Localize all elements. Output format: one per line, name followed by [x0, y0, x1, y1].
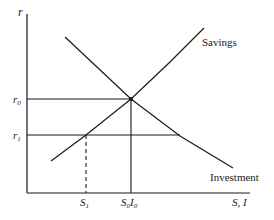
savings-curve — [51, 28, 204, 161]
labels: r S, I r0 r1 S1 S0I0 Savings Investment — [13, 5, 259, 210]
r1-label: r1 — [13, 129, 21, 143]
equilibrium-point — [129, 97, 133, 101]
investment-label: Investment — [210, 171, 259, 183]
investment-curve — [65, 37, 233, 168]
savings-label: Savings — [202, 36, 237, 48]
s0-i0-label: S0I0 — [121, 196, 138, 210]
r0-label: r0 — [13, 93, 21, 107]
y-axis-label: r — [18, 5, 23, 19]
interest-rate-levels — [27, 99, 180, 193]
s1-label: S1 — [80, 196, 89, 210]
curves — [51, 28, 233, 168]
savings-investment-diagram: r S, I r0 r1 S1 S0I0 Savings Investment — [0, 0, 274, 220]
x-axis-label: S, I — [232, 196, 248, 208]
